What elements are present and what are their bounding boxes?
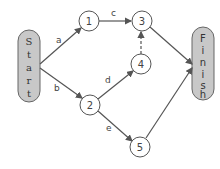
finish-node: F i n i s h <box>192 27 214 100</box>
svg-text:i: i <box>202 69 205 80</box>
svg-text:a: a <box>26 62 32 73</box>
edges <box>40 21 192 141</box>
svg-text:5: 5 <box>137 142 143 153</box>
svg-text:2: 2 <box>87 100 93 111</box>
svg-text:n: n <box>200 57 206 68</box>
edge-label-b: b <box>54 83 60 93</box>
node-4: 4 <box>131 54 151 74</box>
svg-text:F: F <box>200 33 206 44</box>
svg-text:4: 4 <box>138 59 144 70</box>
start-node: S t a r t <box>18 30 40 102</box>
svg-text:1: 1 <box>86 16 92 27</box>
network-diagram: S t a r t F i n i s h a b c d e 1 3 <box>0 0 220 169</box>
edge-label-e: e <box>106 123 112 133</box>
edge-label-c: c <box>111 8 116 18</box>
edge-b <box>40 68 82 98</box>
edge-5-finish <box>146 68 192 138</box>
edge-e <box>98 111 132 141</box>
svg-text:S: S <box>26 36 33 47</box>
edge-a <box>40 28 81 64</box>
edge-label-d: d <box>105 75 111 85</box>
edge-3-finish <box>150 27 192 64</box>
svg-text:h: h <box>200 89 206 100</box>
svg-text:t: t <box>27 88 31 99</box>
node-1: 1 <box>79 11 99 31</box>
edge-label-a: a <box>56 35 62 45</box>
svg-text:i: i <box>202 45 205 56</box>
edge-d <box>98 71 133 99</box>
svg-text:t: t <box>27 49 31 60</box>
svg-text:r: r <box>27 75 32 86</box>
node-2: 2 <box>80 95 100 115</box>
node-5: 5 <box>130 137 150 157</box>
svg-text:3: 3 <box>139 16 145 27</box>
node-3: 3 <box>132 11 152 31</box>
